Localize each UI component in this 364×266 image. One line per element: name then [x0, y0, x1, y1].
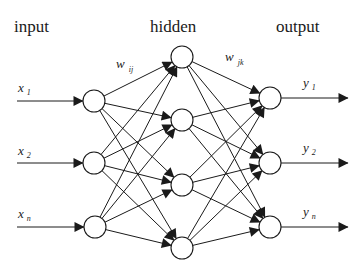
neuron-h4: [171, 237, 193, 259]
connection-h2-o1: [193, 101, 260, 118]
connection-in-h3: [105, 190, 172, 222]
connection-h4-on: [193, 230, 260, 246]
layer-title-input: input: [14, 17, 49, 36]
neuron-i1: [83, 90, 105, 112]
connection-i2-h2: [104, 125, 172, 158]
weight-label-ij: wij: [116, 56, 134, 74]
variable-label-i2: x2: [17, 143, 31, 160]
layer-title-output: output: [276, 17, 320, 36]
connection-h3-o2: [193, 166, 260, 183]
connection-h3-o1: [190, 106, 262, 178]
neurons: [83, 46, 281, 259]
connection-in-h4: [106, 230, 172, 246]
neuron-h1: [171, 46, 193, 68]
neuron-o1: [259, 87, 281, 109]
connection-h4-o2: [190, 171, 262, 241]
layer-title-hidden: hidden: [150, 17, 197, 36]
neuron-o2: [259, 152, 281, 174]
connection-h1-o1: [192, 62, 260, 94]
neuron-i2: [83, 152, 105, 174]
neuron-h2: [171, 109, 193, 131]
connections: [100, 62, 265, 246]
neural-network-diagram: inputx1x2xnhiddenoutputy1y2ynwijwjk: [0, 0, 364, 266]
connection-i1-h1: [104, 62, 172, 96]
variable-label-i1: x1: [17, 80, 31, 97]
variable-label-on: yn: [301, 204, 316, 221]
weight-label-jk: wjk: [225, 49, 244, 67]
neuron-in: [84, 216, 106, 238]
variable-label-o2: y2: [301, 140, 316, 157]
variable-label-in: xn: [17, 206, 31, 223]
variable-label-o1: y1: [301, 75, 316, 92]
neuron-on: [259, 216, 281, 238]
neuron-h3: [171, 174, 193, 196]
